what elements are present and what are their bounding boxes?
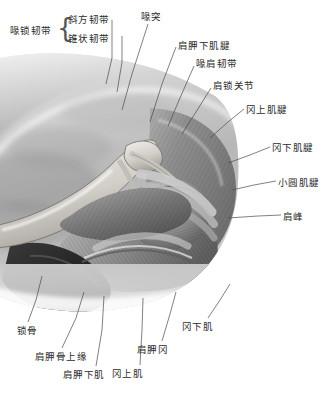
label-coracoclavicular-ligament: 喙锁韧带	[10, 26, 52, 37]
label-subscapularis: 肩胛下肌	[63, 370, 105, 381]
label-teres-minor-tendon: 小圆肌腱	[278, 178, 320, 189]
label-conoid-ligament: 锥状韧带	[68, 34, 110, 45]
figure-root: 喙锁韧带 { 斜方韧带 锥状韧带 喙突肩胛下肌腱喙肩韧带肩锁关节冈上肌腱冈下肌腱…	[0, 0, 327, 393]
label-acromioclavicular-joint: 肩锁关节	[213, 81, 255, 92]
label-subscapularis-tendon: 肩胛下肌腱	[178, 41, 230, 52]
label-infraspinatus: 冈下肌	[182, 322, 213, 333]
label-superior-border-scapula: 肩胛骨上缘	[35, 352, 87, 363]
label-acromion: 肩峰	[283, 212, 304, 223]
label-supraspinatus-tendon: 冈上肌腱	[246, 105, 288, 116]
label-spine-of-scapula: 肩胛冈	[137, 345, 168, 356]
label-coracoid-process: 喙突	[141, 12, 162, 23]
label-infraspinatus-tendon: 冈下肌腱	[272, 143, 314, 154]
label-trapezoid-ligament: 斜方韧带	[68, 15, 110, 26]
shoulder-anatomy-illustration	[0, 50, 240, 315]
label-coracoacromial-ligament: 喙肩韧带	[196, 59, 238, 70]
label-supraspinatus: 冈上肌	[112, 369, 143, 380]
label-clavicle: 锁骨	[17, 326, 38, 337]
